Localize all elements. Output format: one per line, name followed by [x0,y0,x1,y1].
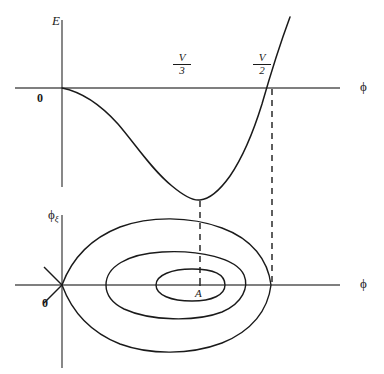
x-tick-v-over-2: V 2 [253,52,271,76]
center-point-label: A [195,288,202,299]
x-tick-v-over-3: V 3 [173,52,191,76]
x-tick-v-over-2-numerator: V [259,51,266,63]
center-point-marker [199,284,201,286]
bottom-y-axis-label-subscript: ξ [55,214,59,224]
bottom-y-axis-label: ϕξ [48,208,59,224]
top-origin-label: 0 [37,92,43,104]
top-y-axis-label: E [52,14,60,27]
energy-curve [62,17,290,200]
bottom-x-axis-label: ϕ [360,277,367,290]
figure-canvas [0,0,384,374]
x-tick-v-over-3-numerator: V [179,51,186,63]
physics-figure: E ϕ 0 V 3 V 2 ϕξ ϕ 0 A [0,0,384,374]
top-panel-axes [15,20,340,187]
top-x-axis-label: ϕ [360,80,367,93]
x-tick-v-over-2-denominator: 2 [253,64,271,77]
bottom-panel-axes [15,215,340,368]
x-tick-v-over-3-denominator: 3 [173,64,191,77]
bottom-y-axis-label-base: ϕ [48,207,55,222]
bottom-origin-label: 0 [42,297,48,309]
